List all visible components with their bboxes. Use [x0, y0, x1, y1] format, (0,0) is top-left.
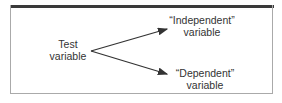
arrow-to-independent	[91, 29, 167, 51]
dependent-line2: variable	[172, 79, 238, 91]
dependent-node: “Dependent” variable	[172, 67, 238, 91]
source-line2: variable	[46, 50, 90, 62]
independent-node: “Independent” variable	[168, 14, 236, 38]
independent-line2: variable	[168, 26, 236, 38]
arrows	[0, 0, 282, 103]
independent-line1: “Independent”	[168, 14, 236, 26]
source-node: Test variable	[46, 38, 90, 62]
source-line1: Test	[46, 38, 90, 50]
dependent-line1: “Dependent”	[172, 67, 238, 79]
arrow-to-dependent	[91, 51, 167, 74]
